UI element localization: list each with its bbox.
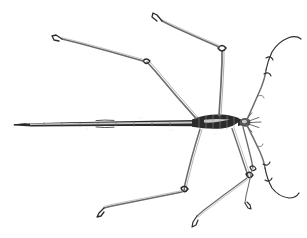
specimen-drawing	[0, 0, 307, 238]
plate-background	[0, 0, 307, 238]
head-highlight	[242, 120, 247, 124]
specimen-illustration-plate	[0, 0, 307, 238]
